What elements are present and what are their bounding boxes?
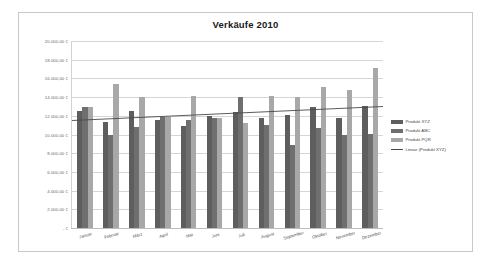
x-axis-tick-label: September <box>280 226 311 252</box>
bar-group <box>202 41 228 228</box>
legend-label: Produkt PQR <box>406 137 431 142</box>
x-axis-tick-labels: JanuarFebruarMärzAprilMaiJuniJuliAugustS… <box>71 230 383 250</box>
bar-groups <box>72 41 383 228</box>
legend-color-swatch <box>391 138 403 142</box>
bar-group <box>150 41 176 228</box>
y-axis-tick-label: 12.000,00 € <box>45 113 68 118</box>
y-axis-tick-label: 18.000,00 € <box>45 57 68 62</box>
x-axis-tick-label: November <box>332 226 363 252</box>
bar[interactable] <box>88 107 93 228</box>
legend-color-swatch <box>391 129 403 133</box>
bar[interactable] <box>347 90 352 228</box>
bar[interactable] <box>243 123 248 228</box>
x-axis-tick-label: August <box>254 226 285 252</box>
legend-label: Produkt XYZ <box>406 119 430 124</box>
y-axis-tick-label: 10.000,00 € <box>45 132 68 137</box>
x-axis-tick-label: März <box>124 226 155 252</box>
x-axis-tick-label: Januar <box>72 226 103 252</box>
legend-item[interactable]: Produkt PQR <box>391 137 471 142</box>
bar[interactable] <box>165 117 170 228</box>
legend-item[interactable]: Produkt XYZ <box>391 119 471 124</box>
bar[interactable] <box>321 87 326 228</box>
bar-group <box>228 41 254 228</box>
bar[interactable] <box>113 84 118 228</box>
y-axis-tick-label: 20.000,00 € <box>45 39 68 44</box>
y-axis-tick-label: 4.000,00 € <box>47 188 68 193</box>
plot-area: - €2.000,00 €4.000,00 €6.000,00 €8.000,0… <box>71 41 383 228</box>
bar-group <box>72 41 98 228</box>
y-axis-tick-label: 6.000,00 € <box>47 169 68 174</box>
bar-group <box>98 41 124 228</box>
x-axis-tick-label: Februar <box>98 226 129 252</box>
x-axis-tick-label: Juli <box>228 226 259 252</box>
bar[interactable] <box>269 96 274 228</box>
bar-group <box>279 41 305 228</box>
legend-color-swatch <box>391 120 403 124</box>
y-axis-tick-label: 2.000,00 € <box>47 207 68 212</box>
x-axis-tick-label: April <box>150 226 181 252</box>
x-axis-tick-label: Dezember <box>358 226 389 252</box>
bar-group <box>124 41 150 228</box>
y-axis-tick-label: 14.000,00 € <box>45 95 68 100</box>
bar-group <box>253 41 279 228</box>
bar[interactable] <box>295 97 300 228</box>
legend-item[interactable]: Linear (Produkt XYZ) <box>391 147 471 152</box>
y-axis-tick-label: 16.000,00 € <box>45 76 68 81</box>
y-axis-tick-label: 8.000,00 € <box>47 151 68 156</box>
chart-container[interactable]: Verkäufe 2010 - €2.000,00 €4.000,00 €6.0… <box>18 12 473 252</box>
bar[interactable] <box>217 118 222 228</box>
legend-label: Linear (Produkt XYZ) <box>406 147 446 152</box>
chart-legend[interactable]: Produkt XYZProdukt ABCProdukt PQRLinear … <box>391 119 471 152</box>
legend-label: Produkt ABC <box>406 128 431 133</box>
bar-group <box>305 41 331 228</box>
bar-group <box>357 41 383 228</box>
bar[interactable] <box>191 96 196 228</box>
y-axis-tick-label: - € <box>63 226 68 231</box>
bar-group <box>176 41 202 228</box>
bar[interactable] <box>139 97 144 228</box>
bar-group <box>331 41 357 228</box>
bar[interactable] <box>373 68 378 228</box>
x-axis-tick-label: Oktober <box>306 226 337 252</box>
legend-line-marker <box>391 149 403 150</box>
x-axis-tick-label: Juni <box>202 226 233 252</box>
x-axis-tick-label: Mai <box>176 226 207 252</box>
legend-item[interactable]: Produkt ABC <box>391 128 471 133</box>
